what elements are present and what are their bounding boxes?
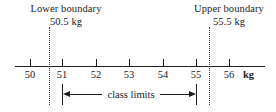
lower-boundary-caption: Lower boundary 50.5 kg xyxy=(24,3,108,28)
axis-tick-50 xyxy=(30,59,31,67)
class-limits-bracket: class limits xyxy=(62,84,197,106)
axis-tick-label-50: 50 xyxy=(19,69,41,81)
class-boundaries-number-line-figure: Lower boundary 50.5 kg Upper boundary 55… xyxy=(0,0,276,112)
upper-boundary-caption-line2: 55.5 kg xyxy=(187,16,271,29)
axis-tick-56 xyxy=(229,59,230,67)
axis-unit-label: kg xyxy=(243,69,254,81)
axis-tick-53 xyxy=(129,59,130,67)
arrow-right-icon xyxy=(189,91,196,97)
class-limits-right-post xyxy=(196,84,197,105)
class-limits-label: class limits xyxy=(102,88,160,101)
axis-tick-label-52: 52 xyxy=(85,69,107,81)
axis-tick-52 xyxy=(96,59,97,67)
axis-tick-label-55: 55 xyxy=(185,69,207,81)
lower-boundary-caption-line2: 50.5 kg xyxy=(24,16,108,29)
class-limits-left-rule xyxy=(67,94,105,95)
axis-tick-51 xyxy=(62,59,63,67)
arrow-left-icon xyxy=(63,91,70,97)
class-limits-right-rule xyxy=(159,94,192,95)
lower-boundary-caption-line1: Lower boundary xyxy=(24,3,108,16)
number-line-axis xyxy=(15,66,265,67)
upper-boundary-caption: Upper boundary 55.5 kg xyxy=(187,3,271,28)
upper-boundary-caption-line1: Upper boundary xyxy=(187,3,271,16)
axis-tick-label-51: 51 xyxy=(51,69,73,81)
axis-tick-label-53: 53 xyxy=(118,69,140,81)
axis-tick-label-54: 54 xyxy=(152,69,174,81)
axis-tick-55 xyxy=(196,59,197,67)
axis-tick-54 xyxy=(163,59,164,67)
axis-tick-label-56: 56 xyxy=(218,69,240,81)
